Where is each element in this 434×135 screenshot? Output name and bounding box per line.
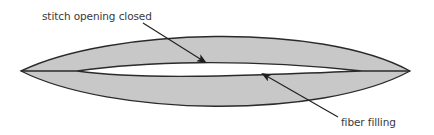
stuffed-shape-cross-section-diagram: stitch opening closed fiber filling <box>0 0 434 135</box>
fiber-filling-label: fiber filling <box>341 116 396 128</box>
stitch-opening-closed-label: stitch opening closed <box>42 10 152 22</box>
